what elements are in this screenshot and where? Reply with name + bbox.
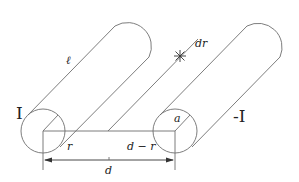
left-radius-line (43, 115, 58, 131)
right-conductor (153, 23, 282, 153)
current-right-label: -I (233, 106, 245, 126)
right-cylinder-top-cap (247, 23, 282, 57)
left-cylinder-lower-edge (60, 57, 149, 147)
arrow-right-icon (166, 158, 174, 163)
current-left-label: I (16, 103, 23, 123)
left-cylinder-upper-edge (28, 26, 115, 115)
separation-label: d (105, 164, 112, 177)
left-conductor (21, 23, 151, 153)
distance-r-label: r (67, 140, 73, 153)
distance-d-minus-r-label: d − r (127, 140, 156, 153)
strip-marker-icon (174, 50, 186, 62)
diagram-canvas: ℓ I -I a r d − r d dr (0, 0, 299, 182)
right-cylinder-lower-edge (192, 57, 280, 147)
dimension-d (44, 157, 174, 163)
length-label: ℓ (66, 54, 71, 67)
strip-width-label: dr (195, 37, 208, 50)
left-cylinder-top-cap (115, 23, 151, 57)
arrow-left-icon (44, 158, 52, 163)
radius-label: a (174, 112, 181, 125)
